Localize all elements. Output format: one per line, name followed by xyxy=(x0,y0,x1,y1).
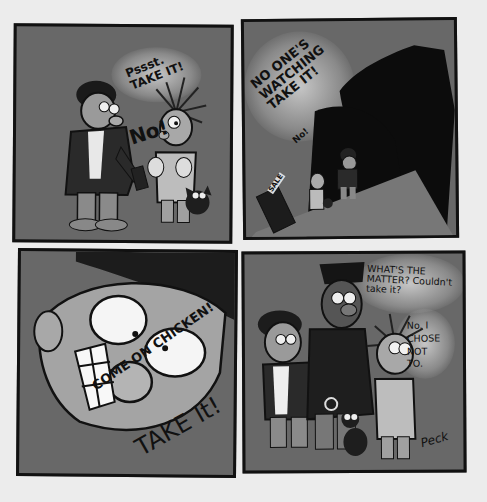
scene-illustration xyxy=(15,26,234,244)
scene-illustration xyxy=(244,20,459,240)
comic-panel-1: Pssst. TAKE IT! No! xyxy=(12,23,234,244)
speech-no-i-chose-not-to: No. I CHOSE NOT TO. xyxy=(407,320,441,371)
comic-panel-2: NO ONE'S WATCHING TAKE IT! No! SALE xyxy=(241,17,459,240)
comic-panel-4: WHAT'S THE MATTER? Couldn't take it? No.… xyxy=(241,250,466,473)
comic-panel-3: COME ON CHICKEN! TAKE It! xyxy=(16,248,238,478)
speech-whats-the-matter: WHAT'S THE MATTER? Couldn't take it? xyxy=(366,264,453,298)
